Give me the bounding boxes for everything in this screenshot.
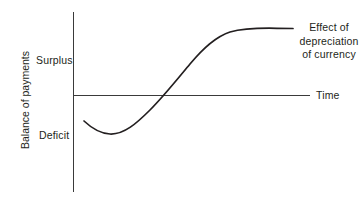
y-axis-label: Balance of payments xyxy=(19,30,31,170)
j-curve-figure: Balance of payments Surplus Deficit Time… xyxy=(0,0,363,201)
x-axis-label: Time xyxy=(316,89,340,102)
annotation-line-3: of currency xyxy=(302,48,356,60)
curve-annotation: Effect of depreciation of currency xyxy=(296,21,362,62)
y-axis-label-container: Balance of payments xyxy=(0,0,44,201)
surplus-label: Surplus xyxy=(36,54,73,67)
annotation-line-2: depreciation xyxy=(299,35,358,47)
annotation-line-1: Effect of xyxy=(309,21,349,33)
balance-of-payments-curve xyxy=(84,28,293,134)
deficit-label: Deficit xyxy=(39,129,69,142)
